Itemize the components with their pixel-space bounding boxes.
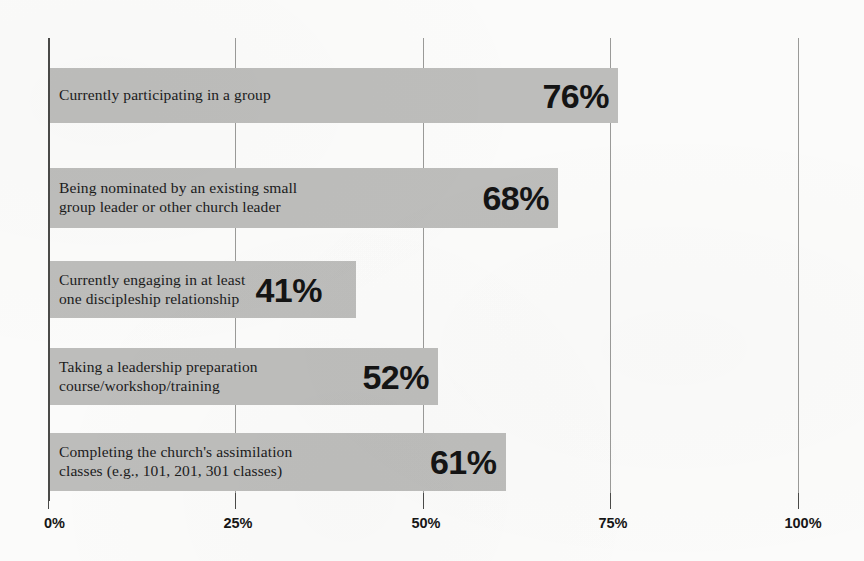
x-tick-50 — [423, 493, 424, 509]
chart-page: Currently participating in a group 76% B… — [0, 0, 864, 561]
gridline-0 — [48, 38, 50, 501]
bar-row: Taking a leadership preparation course/w… — [48, 348, 438, 405]
bar-label-line1: Currently participating in a group — [59, 86, 271, 103]
bar-value: 68% — [482, 181, 549, 215]
bar-label-line2: course/workshop/training — [59, 377, 258, 396]
bar: Currently engaging in at least one disci… — [48, 261, 356, 318]
bar: Completing the church's assimilation cla… — [48, 433, 506, 491]
bar-label: Currently participating in a group — [59, 86, 271, 105]
bar-label: Completing the church's assimilation cla… — [59, 443, 292, 481]
bar-label-line2: one discipleship relationship — [59, 290, 245, 309]
bar-label-line1: Currently engaging in at least — [59, 271, 245, 288]
bar-value: 76% — [542, 79, 609, 113]
x-tick-label-0: 0% — [44, 515, 65, 531]
bar-label: Currently engaging in at least one disci… — [59, 271, 245, 309]
bar-label-line1: Taking a leadership preparation — [59, 358, 258, 375]
x-tick-label-100: 100% — [784, 515, 821, 531]
bar-row: Currently engaging in at least one disci… — [48, 261, 356, 318]
bar-value: 52% — [362, 360, 429, 394]
bar-value: 61% — [430, 445, 497, 479]
bar-row: Currently participating in a group 76% — [48, 68, 618, 123]
gridline-100 — [798, 38, 799, 501]
bar-row: Completing the church's assimilation cla… — [48, 433, 506, 491]
x-tick-label-25: 25% — [223, 515, 252, 531]
bar-label-line1: Being nominated by an existing small — [59, 179, 297, 196]
bar-chart: Currently participating in a group 76% B… — [0, 0, 864, 561]
bar: Being nominated by an existing small gro… — [48, 168, 558, 228]
x-tick-label-75: 75% — [598, 515, 627, 531]
x-tick-label-50: 50% — [411, 515, 440, 531]
bar-label-line2: group leader or other church leader — [59, 198, 297, 217]
bar: Taking a leadership preparation course/w… — [48, 348, 438, 405]
bar-label: Taking a leadership preparation course/w… — [59, 358, 258, 396]
bar-value: 41% — [255, 273, 322, 307]
x-tick-100 — [798, 493, 799, 509]
bar: Currently participating in a group 76% — [48, 68, 618, 123]
x-tick-75 — [610, 493, 611, 509]
x-tick-25 — [235, 493, 236, 509]
bar-row: Being nominated by an existing small gro… — [48, 168, 558, 228]
bar-label-line2: classes (e.g., 101, 201, 301 classes) — [59, 462, 292, 481]
bar-label-line1: Completing the church's assimilation — [59, 443, 292, 460]
bar-label: Being nominated by an existing small gro… — [59, 179, 297, 217]
